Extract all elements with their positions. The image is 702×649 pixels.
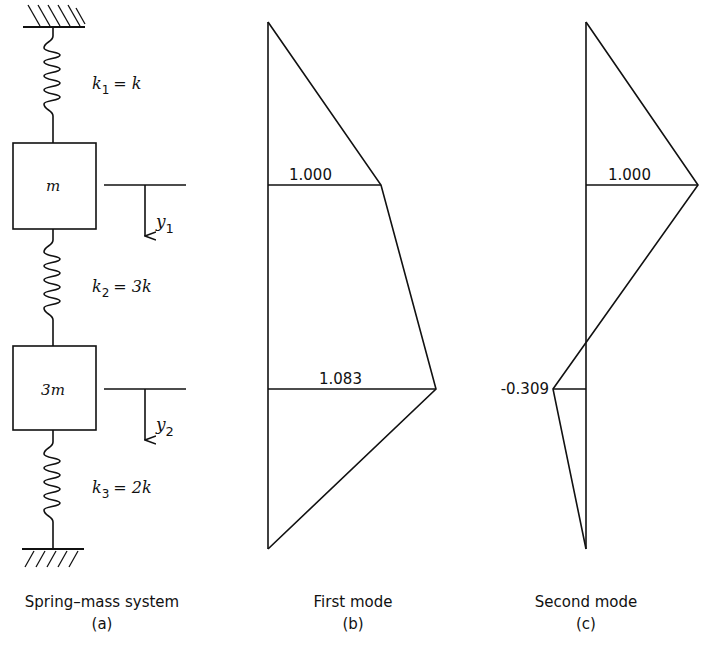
- panel-c-caption: Second mode: [535, 593, 638, 611]
- mass-m-label: m: [46, 177, 60, 195]
- second-mode-shape: 1.000 -0.309 Second mode (c): [501, 22, 698, 633]
- second-mode-curve: [553, 22, 698, 549]
- second-mode-value-1: 1.000: [608, 166, 651, 184]
- first-mode-curve: [268, 22, 436, 549]
- spring-1-icon: [44, 27, 60, 143]
- bottom-ground-icon: [22, 549, 84, 567]
- diagram-canvas: m y1 3m y2 k1= k k2= 3k: [0, 0, 702, 649]
- second-mode-value-2: -0.309: [501, 380, 549, 398]
- first-mode-shape: 1.000 1.083 First mode (b): [268, 22, 436, 633]
- top-ground-icon: [23, 5, 85, 27]
- first-mode-value-2: 1.083: [319, 370, 362, 388]
- panel-b-tag: (b): [342, 615, 363, 633]
- spring-mass-system: m y1 3m y2 k1= k k2= 3k: [13, 5, 186, 633]
- spring-3-label: k3= 2k: [92, 478, 152, 501]
- spring-2-icon: [44, 229, 60, 346]
- y1-label: y1: [155, 211, 174, 236]
- spring-3-icon: [44, 430, 60, 548]
- panel-b-caption: First mode: [314, 593, 393, 611]
- y2-label: y2: [155, 414, 174, 439]
- mass-3m-label: 3m: [41, 381, 65, 399]
- spring-2-label: k2= 3k: [92, 277, 152, 300]
- panel-a-caption: Spring–mass system: [25, 593, 179, 611]
- first-mode-value-1: 1.000: [289, 166, 332, 184]
- panel-c-tag: (c): [576, 615, 596, 633]
- panel-a-tag: (a): [92, 615, 113, 633]
- spring-1-label: k1= k: [92, 74, 142, 97]
